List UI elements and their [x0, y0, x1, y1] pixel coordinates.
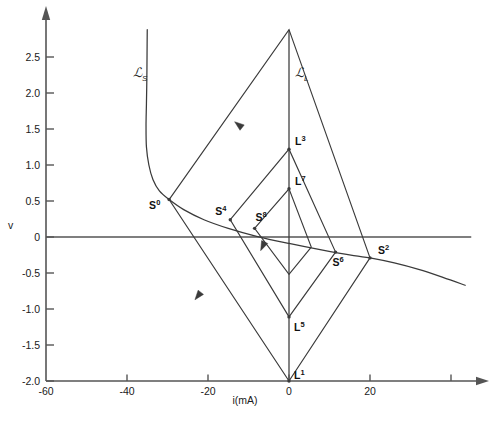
point-marker-S6 — [334, 250, 337, 253]
point-superscript-S8: 8 — [263, 210, 267, 219]
point-marker-L3 — [287, 147, 290, 150]
point-marker-S2 — [368, 256, 371, 259]
x-axis-title: i(mA) — [232, 394, 257, 406]
point-marker-S8 — [253, 227, 256, 230]
point-superscript-S0: 0 — [156, 198, 160, 207]
figure-background — [0, 0, 489, 431]
point-marker-L1 — [287, 379, 290, 382]
y-tick-label-1.5: 1.5 — [25, 123, 40, 135]
x-tick-label--60: -60 — [38, 385, 53, 397]
x-tick-label--20: -20 — [200, 385, 215, 397]
y-tick-label--1.0: -1.0 — [22, 303, 40, 315]
point-superscript-S6: 6 — [340, 255, 344, 264]
curve-label-subscript-script-L-S: S — [142, 74, 148, 83]
y-tick-label-0: 0 — [34, 231, 40, 243]
point-superscript-L5: 5 — [300, 320, 304, 329]
x-tick-label--40: -40 — [119, 385, 134, 397]
y-tick-label-2.0: 2.0 — [25, 87, 40, 99]
point-marker-L5 — [287, 315, 290, 318]
point-superscript-L3: 3 — [301, 134, 305, 143]
point-marker-S0 — [167, 198, 170, 201]
y-tick-label--0.5: -0.5 — [22, 267, 40, 279]
y-tick-label--2.0: -2.0 — [22, 375, 40, 387]
point-superscript-S2: 2 — [385, 243, 389, 252]
point-marker-S4 — [229, 218, 232, 221]
iv-characteristic-figure: -60-40-200202.52.01.51.00.50-0.5-1.0-1.5… — [0, 0, 489, 431]
y-tick-label-2.5: 2.5 — [25, 51, 40, 63]
point-superscript-L7: 7 — [301, 174, 305, 183]
y-axis-title: v — [8, 219, 14, 231]
x-tick-label-20: 20 — [364, 385, 376, 397]
y-tick-label-1.0: 1.0 — [25, 159, 40, 171]
x-tick-label-0: 0 — [286, 385, 292, 397]
y-tick-label-0.5: 0.5 — [25, 195, 40, 207]
y-tick-label--1.5: -1.5 — [22, 339, 40, 351]
point-marker-L7 — [287, 187, 290, 190]
point-superscript-L1: 1 — [300, 368, 304, 377]
curve-label-subscript-script-L-L: L — [304, 74, 308, 83]
